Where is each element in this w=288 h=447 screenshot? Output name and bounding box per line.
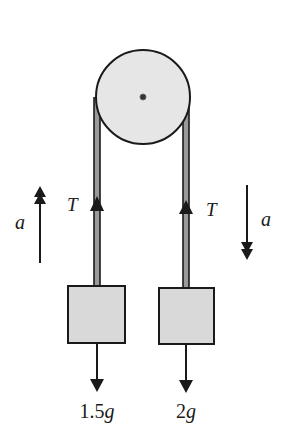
left-acceleration-arrow-icon [34, 186, 46, 263]
left-tension-label: T [67, 194, 79, 215]
right-tension-arrowhead-icon [179, 200, 193, 214]
right-rope [183, 97, 189, 288]
right-tension-label: T [206, 199, 218, 220]
left-rope [94, 97, 100, 286]
left-tension-arrowhead-icon [90, 196, 104, 211]
right-acceleration-arrow-icon [241, 185, 253, 260]
right-weight-arrow-icon [179, 344, 193, 393]
left-block [68, 286, 125, 343]
left-acceleration-label: a [15, 211, 25, 233]
right-acceleration-label: a [261, 208, 271, 230]
left-weight-label: 1.5g [80, 400, 115, 423]
pulley [96, 50, 190, 144]
right-block [159, 288, 214, 344]
atwood-machine-diagram: T T a a 1.5g 2g [0, 0, 288, 447]
pulley-axle [140, 94, 146, 100]
left-weight-arrow-icon [90, 343, 104, 392]
right-weight-label: 2g [176, 400, 196, 423]
